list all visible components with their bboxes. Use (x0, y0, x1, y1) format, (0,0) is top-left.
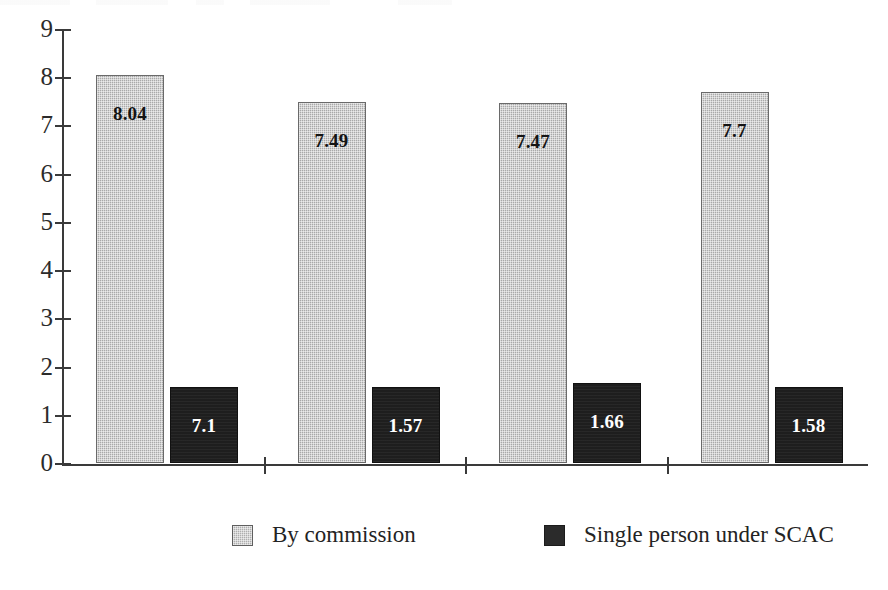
y-axis-tick-label: 4 (41, 257, 54, 283)
y-axis-tick-mark (55, 463, 71, 465)
y-axis-tick-mark (55, 415, 71, 417)
y-axis-tick-label: 8 (41, 64, 54, 90)
y-axis-tick-mark (55, 318, 71, 320)
y-axis-tick-label: 1 (41, 402, 54, 428)
bar-value-label: 7.1 (171, 416, 237, 436)
bar-chart: 0123456789 8.047.17.491.577.471.667.71.5… (0, 0, 888, 590)
light-gray-swatch (232, 525, 253, 546)
y-axis-tick-label: 6 (41, 161, 54, 187)
dark-swatch (544, 525, 565, 546)
bar[interactable]: 1.58 (775, 387, 843, 463)
x-axis-separator-tick (465, 457, 467, 474)
bar[interactable]: 7.47 (499, 103, 567, 463)
legend-item[interactable]: By commission (232, 518, 416, 552)
legend-item[interactable]: Single person under SCAC (544, 518, 834, 552)
y-axis-line (62, 30, 64, 466)
y-axis-tick-label: 2 (41, 354, 54, 380)
y-axis-tick-mark (55, 222, 71, 224)
bar[interactable]: 1.57 (372, 387, 440, 463)
y-axis-tick-mark (55, 125, 71, 127)
x-axis-separator-tick (667, 457, 669, 474)
y-axis-tick-mark (55, 29, 71, 31)
bar[interactable]: 7.1 (170, 387, 238, 463)
y-axis-tick-mark (55, 270, 71, 272)
bar-value-label: 8.04 (97, 104, 163, 124)
legend-item-label: By commission (272, 522, 416, 548)
y-axis-tick-mark (55, 77, 71, 79)
x-axis-separator-tick (264, 457, 266, 474)
bar-value-label: 1.58 (776, 416, 842, 436)
bar-value-label: 1.66 (574, 412, 640, 432)
y-axis-tick-label: 0 (41, 450, 54, 476)
y-axis-tick-label: 9 (41, 16, 54, 42)
bar-value-label: 1.57 (373, 416, 439, 436)
bar-value-label: 7.49 (299, 131, 365, 151)
scan-artifact (0, 0, 560, 5)
y-axis-tick-label: 3 (41, 305, 54, 331)
bar[interactable]: 1.66 (573, 383, 641, 463)
plot-area: 0123456789 8.047.17.491.577.471.667.71.5… (62, 30, 868, 465)
bar[interactable]: 7.49 (298, 102, 366, 463)
y-axis-tick-mark (55, 174, 71, 176)
legend-item-label: Single person under SCAC (584, 522, 834, 548)
bar[interactable]: 7.7 (701, 92, 769, 463)
bar-value-label: 7.7 (702, 121, 768, 141)
y-axis-tick-label: 7 (41, 112, 54, 138)
y-axis-tick-mark (55, 367, 71, 369)
legend: By commissionSingle person under SCAC (0, 518, 888, 558)
y-axis-tick-label: 5 (41, 209, 54, 235)
bar-value-label: 7.47 (500, 132, 566, 152)
bar[interactable]: 8.04 (96, 75, 164, 463)
